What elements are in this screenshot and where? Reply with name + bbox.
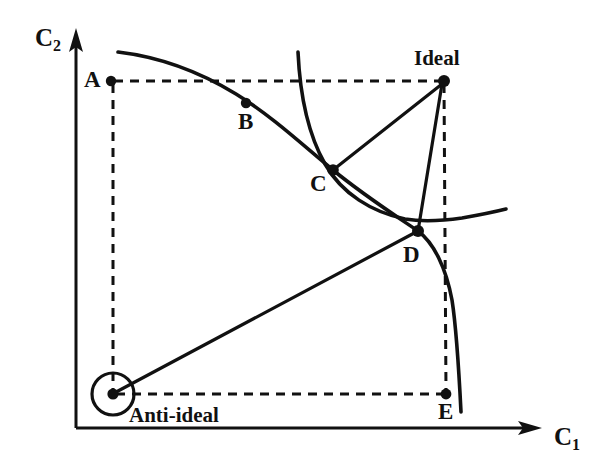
y-axis-label: C2: [35, 25, 61, 50]
point-c-dot: [327, 164, 339, 176]
ray-group: [118, 84, 442, 391]
x-axis-label-sub: 1: [572, 436, 580, 453]
point-a-label: A: [84, 68, 101, 91]
point-a-dot: [106, 76, 116, 86]
point-anti-ideal-dot: [107, 388, 118, 399]
diagram-canvas: C2 C1 A B C D E Ideal Anti-ideal: [0, 0, 592, 465]
point-c-label: C: [310, 172, 327, 195]
point-ideal-dot: [438, 75, 450, 87]
x-axis-label-text: C: [554, 423, 572, 450]
d-to-ideal-ray: [418, 84, 442, 231]
x-axis-label: C1: [554, 424, 580, 449]
c-to-ideal-ray: [333, 84, 442, 170]
point-b-dot: [241, 98, 251, 108]
anti-ideal-label: Anti-ideal: [129, 405, 219, 426]
point-e-dot: [441, 389, 452, 400]
point-b-label: B: [238, 110, 253, 133]
axes-group: [69, 28, 542, 435]
y-axis-label-sub: 2: [53, 37, 61, 54]
point-d-dot: [412, 225, 424, 237]
y-axis-label-text: C: [35, 24, 53, 51]
point-markers-group: [92, 75, 451, 415]
indifference-curve: [298, 52, 506, 221]
point-e-label: E: [438, 400, 453, 423]
point-d-label: D: [403, 243, 420, 266]
ideal-to-e-guide: [444, 84, 446, 391]
pareto-front-curve: [118, 52, 461, 412]
ideal-label: Ideal: [414, 48, 460, 69]
dashed-guides-group: [113, 81, 446, 394]
anti-ideal-to-d-ray: [118, 231, 418, 391]
